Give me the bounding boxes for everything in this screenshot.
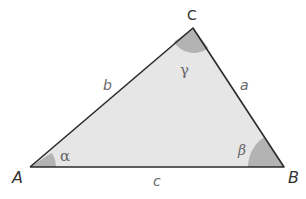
- triangle-diagram: A B C a b c α β γ: [0, 0, 306, 199]
- side-b-label: b: [103, 77, 112, 93]
- side-a-label: a: [240, 77, 249, 93]
- vertex-a-label: A: [11, 168, 23, 187]
- vertex-b-label: B: [288, 168, 299, 187]
- angle-gamma-label: γ: [180, 61, 189, 79]
- side-c-label: c: [153, 173, 161, 189]
- angle-beta-label: β: [237, 142, 246, 158]
- angle-alpha-wedge: [30, 153, 56, 167]
- vertex-c-label: C: [187, 7, 197, 23]
- angle-alpha-label: α: [60, 147, 70, 165]
